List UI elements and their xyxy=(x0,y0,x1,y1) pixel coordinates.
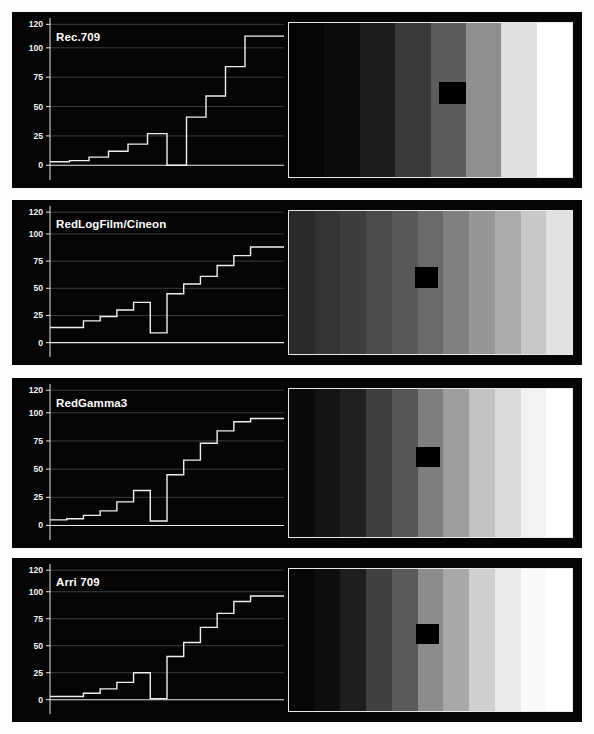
waveform-arri709: 1201007550250 xyxy=(12,558,288,722)
grayramp-band xyxy=(443,569,469,711)
grayramp-band xyxy=(366,389,392,537)
svg-text:0: 0 xyxy=(38,338,43,348)
grayramp-band xyxy=(392,389,418,537)
grayramp-band xyxy=(521,211,547,354)
waveform-rec709: 1201007550250 xyxy=(12,12,288,188)
panel-arri709: 1201007550250 Arri 709 xyxy=(12,558,582,722)
svg-text:100: 100 xyxy=(29,43,44,53)
svg-text:50: 50 xyxy=(33,641,43,651)
grayramp-band xyxy=(289,569,315,711)
svg-text:50: 50 xyxy=(33,102,43,112)
grayramp-band xyxy=(469,211,495,354)
grayramp-band xyxy=(443,389,469,537)
grayramp-band xyxy=(521,569,547,711)
svg-text:120: 120 xyxy=(29,385,44,395)
grayramp-band xyxy=(315,211,341,354)
svg-text:0: 0 xyxy=(38,520,43,530)
panel-title-redgamma3: RedGamma3 xyxy=(56,397,127,409)
grayramp-band xyxy=(340,389,366,537)
grayramp-band xyxy=(392,211,418,354)
svg-text:50: 50 xyxy=(33,464,43,474)
grayramp-band xyxy=(466,23,501,177)
grayramp-band xyxy=(289,389,315,537)
svg-text:75: 75 xyxy=(33,256,43,266)
svg-text:75: 75 xyxy=(33,72,43,82)
svg-text:0: 0 xyxy=(38,160,43,170)
grayramp-band xyxy=(324,23,359,177)
panel-redgamma3: 1201007550250 RedGamma3 xyxy=(12,378,582,548)
grayramp-band xyxy=(495,211,521,354)
svg-text:50: 50 xyxy=(33,283,43,293)
grayramp-band xyxy=(315,569,341,711)
grayramp-band xyxy=(366,569,392,711)
grayramp-arri709 xyxy=(288,568,573,712)
grayramp-band xyxy=(340,569,366,711)
svg-text:100: 100 xyxy=(29,408,44,418)
grayramp-band xyxy=(546,569,572,711)
grayramp-band xyxy=(360,23,395,177)
panel-title-arri709: Arri 709 xyxy=(56,576,100,588)
grayramp-black-patch xyxy=(439,82,466,104)
svg-text:100: 100 xyxy=(29,229,44,239)
grayramp-band xyxy=(443,211,469,354)
svg-text:25: 25 xyxy=(33,131,43,141)
svg-text:75: 75 xyxy=(33,614,43,624)
svg-text:120: 120 xyxy=(29,207,44,217)
grayramp-redgamma3 xyxy=(288,388,573,538)
svg-text:25: 25 xyxy=(33,668,43,678)
svg-text:120: 120 xyxy=(29,19,44,29)
grayramp-band xyxy=(289,211,315,354)
grayramp-black-patch xyxy=(416,447,440,468)
grayramp-band xyxy=(495,569,521,711)
grayramp-black-patch xyxy=(416,624,439,644)
waveform-redgamma3: 1201007550250 xyxy=(12,378,288,548)
svg-text:75: 75 xyxy=(33,436,43,446)
svg-text:25: 25 xyxy=(33,492,43,502)
grayramp-band xyxy=(501,23,536,177)
grayramp-band xyxy=(469,569,495,711)
grayramp-rec709 xyxy=(288,22,573,178)
panel-rec709: 1201007550250 Rec.709 xyxy=(12,12,582,188)
grayramp-band xyxy=(521,389,547,537)
grayramp-redlogfilm xyxy=(288,210,573,355)
panel-redlogfilm: 1201007550250 RedLogFilm/Cineon xyxy=(12,200,582,365)
svg-text:120: 120 xyxy=(29,565,44,575)
svg-text:100: 100 xyxy=(29,587,44,597)
grayramp-band xyxy=(315,389,341,537)
figure-root: 1201007550250 Rec.709 1201007550250 RedL… xyxy=(0,0,594,734)
grayramp-band xyxy=(289,23,324,177)
grayramp-bands xyxy=(289,23,572,177)
grayramp-band xyxy=(469,389,495,537)
grayramp-band xyxy=(546,211,572,354)
panel-title-redlogfilm: RedLogFilm/Cineon xyxy=(56,218,166,230)
panel-title-rec709: Rec.709 xyxy=(56,31,100,43)
grayramp-band xyxy=(366,211,392,354)
svg-text:25: 25 xyxy=(33,310,43,320)
grayramp-black-patch xyxy=(415,267,438,287)
grayramp-band xyxy=(546,389,572,537)
grayramp-band xyxy=(495,389,521,537)
grayramp-band xyxy=(392,569,418,711)
grayramp-band xyxy=(537,23,572,177)
svg-text:0: 0 xyxy=(38,695,43,705)
grayramp-band xyxy=(395,23,430,177)
grayramp-band xyxy=(340,211,366,354)
